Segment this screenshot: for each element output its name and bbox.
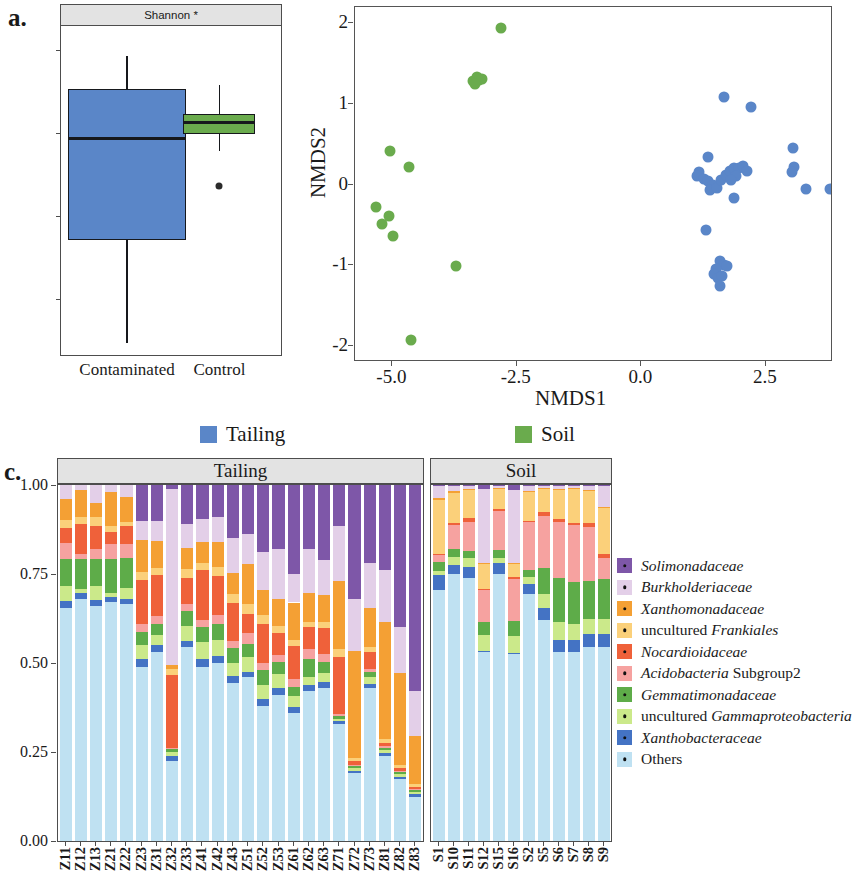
bar-segment xyxy=(364,672,376,677)
stacked-bar xyxy=(196,485,208,841)
bar-segment xyxy=(212,624,224,640)
bar-segment xyxy=(379,484,391,570)
bar-segment xyxy=(463,489,475,490)
bar-segment xyxy=(196,542,208,563)
bar-segment xyxy=(288,574,300,602)
nmds-point-tailing xyxy=(728,193,739,204)
bar-segment xyxy=(598,634,610,647)
bar-segment xyxy=(318,662,330,673)
bar-segment xyxy=(364,652,376,670)
nmds-point-tailing xyxy=(703,152,714,163)
bar-segment xyxy=(348,771,360,773)
bar-segment xyxy=(105,526,117,532)
panel-b-x-tick: -2.5 xyxy=(501,366,531,388)
bar-segment xyxy=(181,626,193,640)
panel-c-x-label: S16 xyxy=(505,847,522,870)
bar-segment xyxy=(538,594,550,608)
bar-segment xyxy=(227,676,239,682)
bar-segment xyxy=(379,756,391,841)
bar-segment xyxy=(90,517,102,526)
bar-segment xyxy=(75,490,87,517)
bar-segment xyxy=(105,544,117,558)
bar-segment xyxy=(166,756,178,761)
bar-segment xyxy=(478,622,490,635)
nmds-point-tailing xyxy=(700,224,711,235)
bar-segment xyxy=(120,588,132,599)
panel-c-x-tick-mark xyxy=(95,842,96,846)
panel-c-x-tick-mark xyxy=(528,842,529,846)
panel-c-x-tick-mark xyxy=(543,842,544,846)
panel-c-x-label: S15 xyxy=(490,847,507,870)
bar-segment xyxy=(493,550,505,558)
group-legend-item-tailing: Tailing xyxy=(200,422,285,447)
bar-segment xyxy=(448,525,460,550)
bar-segment xyxy=(433,575,445,590)
bar-segment xyxy=(257,670,269,685)
bar-segment xyxy=(508,564,520,577)
bar-segment xyxy=(598,485,610,486)
bar-segment xyxy=(136,521,148,540)
taxa-legend-label: Solimonadaceae xyxy=(641,557,743,575)
bar-segment xyxy=(508,490,520,563)
bar-segment xyxy=(463,490,475,518)
bar-segment xyxy=(463,567,475,578)
panel-b-y-tick: 0 xyxy=(304,173,348,195)
bar-segment xyxy=(478,589,490,590)
panel-c-y-tick-mark xyxy=(51,663,56,664)
stacked-bar xyxy=(493,485,505,841)
bar-segment xyxy=(583,581,595,619)
bar-segment xyxy=(379,739,391,743)
panel-c-x-label: Z83 xyxy=(406,847,423,871)
bar-segment xyxy=(333,721,345,723)
bar-segment xyxy=(409,789,421,790)
panel-c-x-tick-mark xyxy=(483,842,484,846)
bar-segment xyxy=(318,654,330,662)
panel-c-y-tick: 0.25 xyxy=(0,743,48,761)
panel-c-x-tick-mark xyxy=(156,842,157,846)
bar-segment xyxy=(583,647,595,841)
panel-c-x-tick-mark xyxy=(232,842,233,846)
taxa-legend-item: uncultured Frankiales xyxy=(617,620,852,642)
bar-segment xyxy=(303,659,315,677)
bar-segment xyxy=(242,633,254,644)
bar-segment xyxy=(105,602,117,841)
bar-segment xyxy=(60,499,72,520)
panel-b-y-tick-mark xyxy=(348,345,353,346)
bar-segment xyxy=(598,486,610,506)
bar-segment xyxy=(463,485,475,486)
bar-segment xyxy=(364,688,376,841)
bar-segment xyxy=(303,627,315,648)
bar-segment xyxy=(166,752,178,756)
bar-segment xyxy=(333,716,345,719)
nmds-point-soil xyxy=(406,335,417,346)
bar-segment xyxy=(105,559,117,593)
bar-segment xyxy=(523,491,535,492)
bar-segment xyxy=(242,534,254,564)
bar-segment xyxy=(151,652,163,841)
stacked-bar xyxy=(181,485,193,841)
bar-segment xyxy=(136,659,148,667)
bar-segment xyxy=(583,490,595,491)
panel-c-x-label: S12 xyxy=(475,847,492,870)
bar-segment xyxy=(90,484,102,503)
stacked-bar xyxy=(257,485,269,841)
panel-c-facet-strip-tailing: Tailing xyxy=(57,458,424,484)
bar-segment xyxy=(433,555,445,562)
panel-c-x-label: S5 xyxy=(535,847,552,862)
bar-segment xyxy=(508,621,520,636)
bar-segment xyxy=(553,486,565,488)
bar-segment xyxy=(242,604,254,614)
bar-segment xyxy=(75,599,87,841)
taxa-legend-label: Nocardioidaceae xyxy=(641,643,747,661)
bar-segment xyxy=(166,489,178,665)
bar-segment xyxy=(523,570,535,577)
bar-segment xyxy=(523,594,535,841)
nmds-point-soil xyxy=(469,79,480,90)
bar-segment xyxy=(196,659,208,666)
bar-segment xyxy=(120,544,132,558)
stacked-bar xyxy=(242,485,254,841)
bar-segment xyxy=(478,652,490,841)
bar-segment xyxy=(508,653,520,654)
stacked-bar xyxy=(379,485,391,841)
bar-segment xyxy=(493,489,505,509)
